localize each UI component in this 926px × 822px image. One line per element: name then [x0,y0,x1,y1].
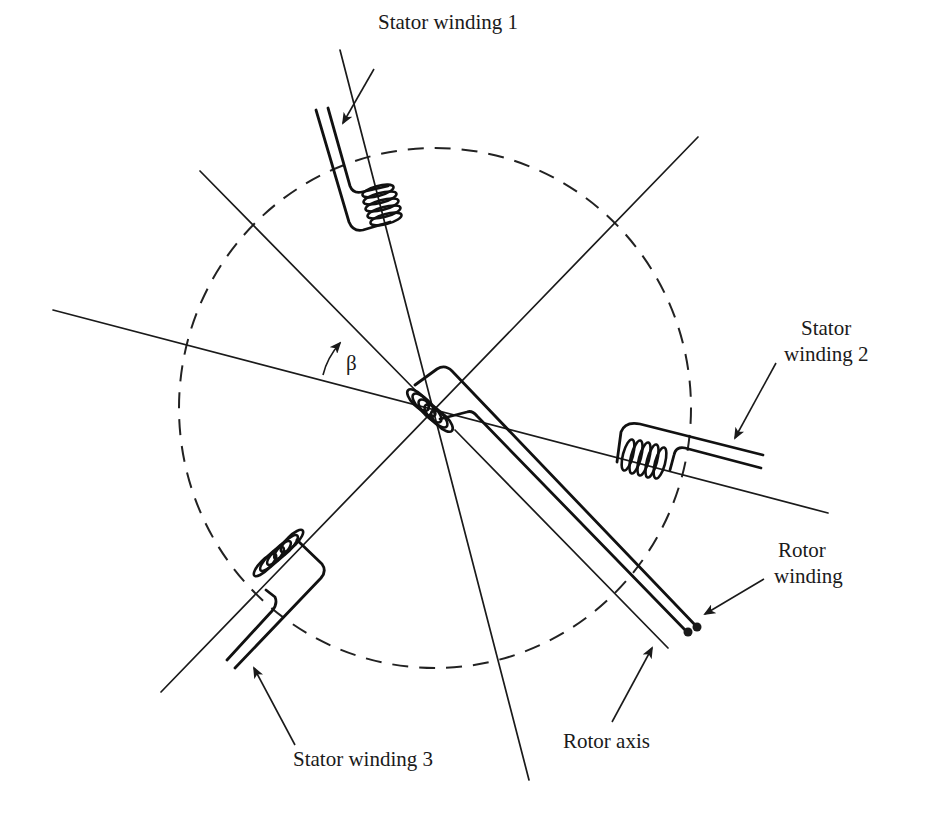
beta-angle-indicator: β [323,343,357,375]
stator-winding-3 [227,527,324,668]
stator-winding-2 [617,423,763,479]
rotor-winding-label-line1: Rotor [778,538,826,562]
beta-label: β [346,351,357,375]
stator-3-axis [161,137,698,692]
rotor-terminal-a [693,623,702,632]
stator3-label: Stator winding 3 [293,747,433,771]
rotor-winding-arrow-icon [705,579,764,614]
perpendicular-axis [200,171,420,395]
stator3-arrow-icon [254,668,295,745]
rotor-winding-label-line2: winding [774,564,843,588]
rotor-axis-label: Rotor axis [563,729,650,753]
winding-diagram: β Stator winding 1 Stator winding 2 Roto… [0,0,926,822]
callouts: Stator winding 1 Stator winding 2 Rotor … [254,10,869,771]
stator1-label: Stator winding 1 [378,10,518,34]
rotor-winding [404,367,702,637]
rotor-axis-arrow-icon [612,648,652,722]
rotor-terminal-b [684,628,693,637]
stator2-label-line1: Stator [801,316,851,340]
beta-arrow-icon [323,343,340,375]
stator2-arrow-icon [735,363,776,438]
stator2-label-line2: winding 2 [784,342,869,366]
